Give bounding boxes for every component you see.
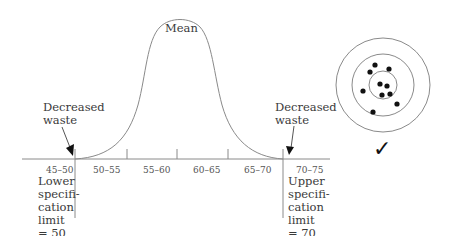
right-arrow-shaft xyxy=(291,126,294,148)
checkmark-icon: ✓ xyxy=(373,136,391,161)
mean-label: Mean xyxy=(165,22,198,35)
label-line: = 70 xyxy=(288,227,330,236)
left-annotation: Decreased waste xyxy=(43,101,105,127)
right-annotation: Decreased waste xyxy=(275,101,337,127)
upper-spec-limit-label: Upper specifi- cation limit = 70 xyxy=(288,175,330,236)
right-arrow-head xyxy=(286,146,294,155)
label-line: = 50 xyxy=(38,227,80,236)
axis-bin-label: 55–60 xyxy=(143,164,170,177)
left-arrow-head xyxy=(66,144,74,156)
axis-bin-label: 65–70 xyxy=(244,164,271,177)
axis-bin-label: 50–55 xyxy=(93,164,120,177)
axis-bin-label: 60–65 xyxy=(193,164,220,177)
lower-spec-limit-label: Lower specifi- cation limit = 50 xyxy=(38,175,80,236)
target-icon xyxy=(336,38,430,132)
bell-curve xyxy=(75,20,283,160)
